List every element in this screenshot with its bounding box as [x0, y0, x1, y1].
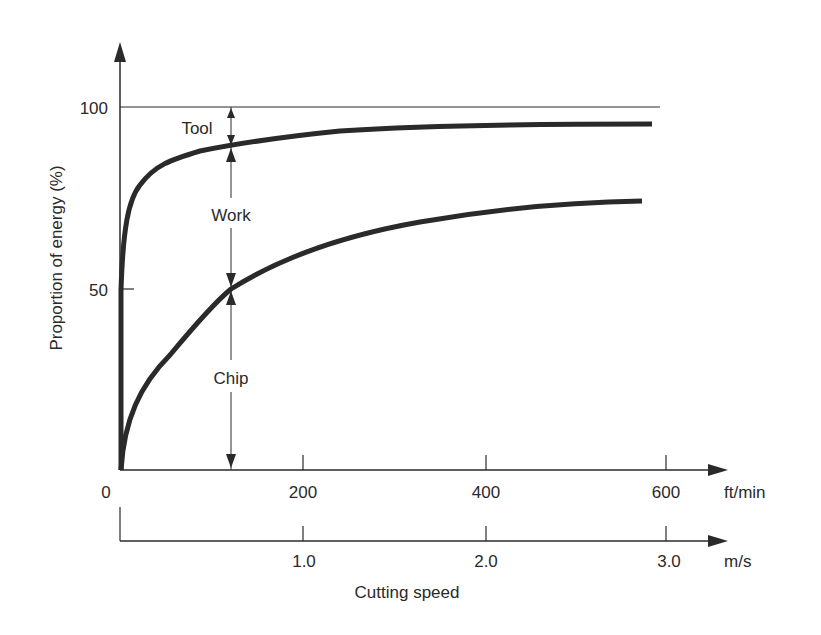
- ms-tick-label-1: 1.0: [292, 552, 316, 571]
- label-work: Work: [211, 206, 251, 225]
- y-axis-arrow-icon: [114, 42, 126, 62]
- x-axis-ms-arrow-icon: [708, 535, 728, 547]
- x-axis-ftmin-arrow-icon: [708, 464, 728, 476]
- x-axis-label: Cutting speed: [355, 583, 460, 602]
- work-arrow-up-icon: [226, 148, 236, 162]
- label-chip: Chip: [214, 369, 249, 388]
- energy-partition-chart: Tool Work Chip 100 50 Proportion of ener…: [0, 0, 821, 635]
- y-axis-label: Proportion of energy (%): [47, 165, 66, 350]
- tool-arrow-up-icon: [227, 108, 235, 118]
- upper-curve: [121, 124, 652, 290]
- x-tick-label-600: 600: [652, 483, 680, 502]
- x-tick-label-0: 0: [101, 483, 110, 502]
- label-tool: Tool: [181, 119, 212, 138]
- x-unit-ftmin: ft/min: [724, 483, 766, 502]
- x-unit-ms: m/s: [724, 552, 751, 571]
- chip-arrow-down-icon: [226, 454, 236, 468]
- x-tick-label-400: 400: [472, 483, 500, 502]
- x-tick-label-200: 200: [289, 483, 317, 502]
- ms-tick-label-2: 2.0: [474, 552, 498, 571]
- ms-tick-label-3: 3.0: [657, 552, 681, 571]
- y-tick-label-100: 100: [80, 99, 108, 118]
- lower-curve: [121, 201, 642, 470]
- y-tick-label-50: 50: [89, 281, 108, 300]
